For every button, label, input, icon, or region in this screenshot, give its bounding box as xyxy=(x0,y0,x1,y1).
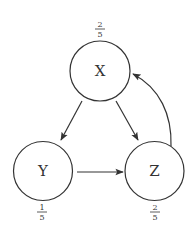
node-y-label: Y xyxy=(37,162,49,180)
edge-z-to-x xyxy=(133,74,171,146)
edge-x-to-z xyxy=(116,101,138,140)
node-x-weight: 2 5 xyxy=(95,20,105,39)
edge-x-to-y xyxy=(61,101,82,140)
node-y-weight-numerator: 1 xyxy=(39,203,44,212)
node-y-weight: 1 5 xyxy=(37,203,47,222)
node-x: X 2 5 xyxy=(70,20,130,101)
node-z: Z 2 5 xyxy=(125,142,184,223)
node-x-weight-denominator: 5 xyxy=(97,30,102,39)
graph-diagram: X 2 5 Y 1 5 Z 2 5 xyxy=(0,0,196,235)
node-z-weight: 2 5 xyxy=(150,203,160,222)
node-y: Y 1 5 xyxy=(14,142,73,223)
node-y-weight-denominator: 5 xyxy=(39,213,44,222)
node-z-weight-denominator: 5 xyxy=(152,213,157,222)
node-x-label: X xyxy=(95,62,106,80)
node-x-weight-numerator: 2 xyxy=(97,20,102,29)
node-z-label: Z xyxy=(149,162,159,180)
node-z-weight-numerator: 2 xyxy=(152,203,157,212)
